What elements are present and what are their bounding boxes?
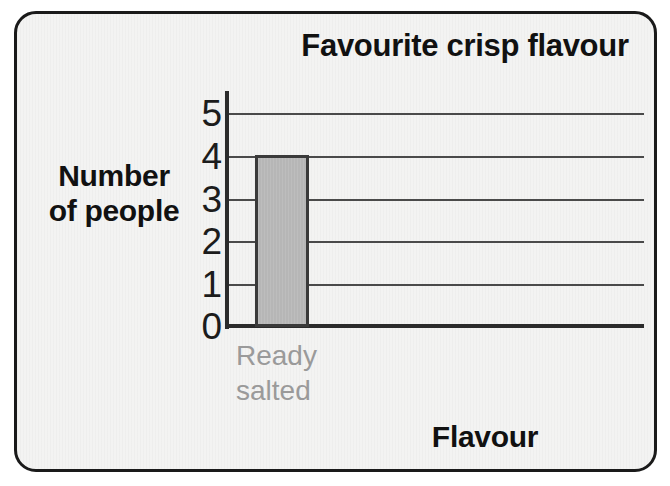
gridline-5 <box>228 113 644 115</box>
y-tick-label-2: 2 <box>188 223 222 260</box>
bar-ready-salted[interactable] <box>255 155 309 327</box>
y-axis-line <box>225 91 229 329</box>
x-axis-title: Flavour <box>400 420 570 454</box>
chart-title: Favourite crisp flavour <box>280 28 650 64</box>
category-label-ready-salted: Ready salted <box>236 338 317 408</box>
y-axis-title: Number of people <box>26 158 202 229</box>
y-axis-title-line-2: of people <box>26 193 202 228</box>
y-tick-label-0: 0 <box>188 308 222 345</box>
y-axis-title-line-1: Number <box>26 158 202 193</box>
y-tick-label-3: 3 <box>188 181 222 218</box>
y-tick-label-4: 4 <box>188 138 222 175</box>
y-tick-label-1: 1 <box>188 266 222 303</box>
bar-chart: Favourite crisp flavour Number of people… <box>0 0 670 486</box>
y-tick-label-5: 5 <box>188 95 222 132</box>
chart-screenshot: Favourite crisp flavour Number of people… <box>0 0 670 486</box>
